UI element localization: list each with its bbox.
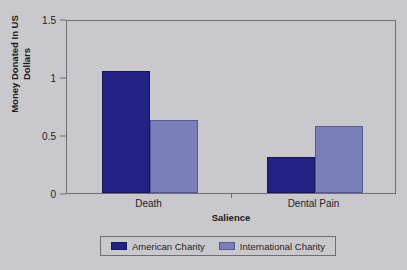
bar-dental-pain-international-charity	[315, 126, 363, 193]
y-axis-tick-label: 1	[50, 73, 56, 84]
chart-legend: American CharityInternational Charity	[100, 236, 336, 256]
bar-death-international-charity	[150, 120, 198, 193]
legend-swatch-icon	[111, 242, 127, 250]
legend-entry[interactable]: International Charity	[219, 241, 325, 252]
y-axis-tick-label: 0.5	[42, 131, 56, 142]
legend-label: International Charity	[240, 241, 325, 252]
legend-label: American Charity	[132, 241, 205, 252]
bar-dental-pain-american-charity	[267, 157, 315, 193]
x-axis-tick-label: Death	[135, 198, 162, 209]
y-axis-ticks: 00.511.5	[0, 20, 66, 194]
x-axis-tick-mark	[231, 194, 232, 198]
chart-root: Money Donated In US Dollars 00.511.5 Dea…	[0, 0, 407, 270]
bar-death-american-charity	[102, 71, 150, 193]
y-axis-tick-label: 1.5	[42, 15, 56, 26]
x-axis-tick-label: Dental Pain	[288, 198, 340, 209]
legend-swatch-icon	[219, 242, 235, 250]
bars-container	[67, 21, 395, 193]
y-axis-tick-label: 0	[50, 189, 56, 200]
x-axis-title: Salience	[66, 212, 396, 223]
legend-entry[interactable]: American Charity	[111, 241, 205, 252]
plot-area	[66, 20, 396, 194]
